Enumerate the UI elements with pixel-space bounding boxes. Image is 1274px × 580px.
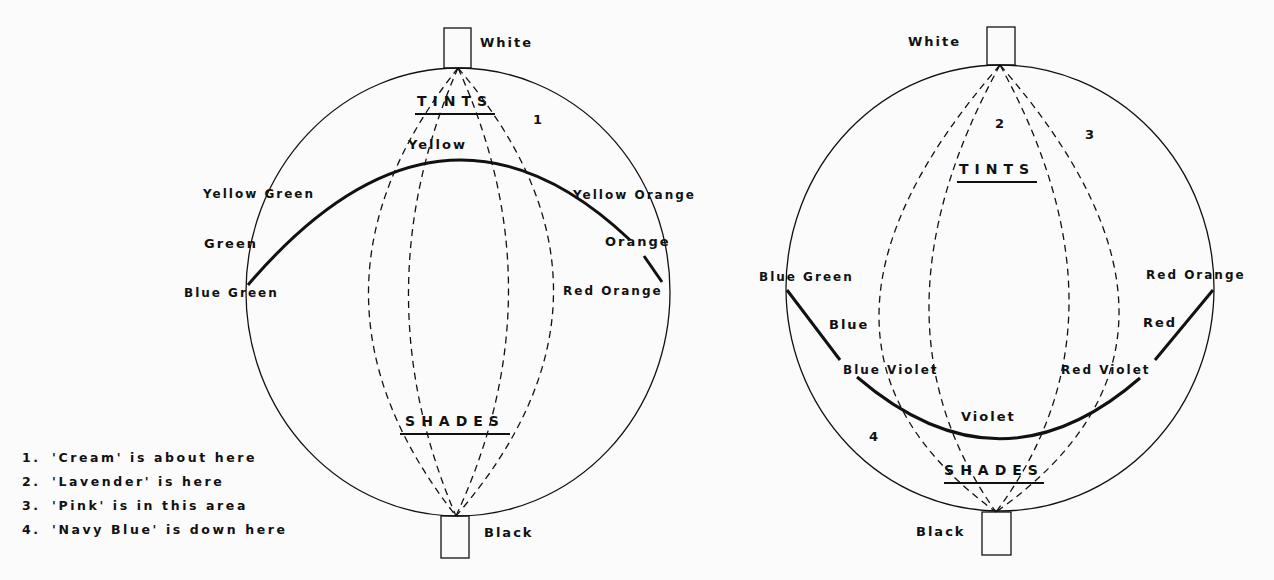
- legend-num: 3.: [22, 494, 52, 518]
- left-white-label: White: [480, 36, 533, 49]
- legend-item-2: 2.'Lavender' is here: [22, 470, 288, 494]
- legend-num: 2.: [22, 470, 52, 494]
- right-white-label: White: [908, 35, 961, 48]
- left-white-swatch: [444, 28, 471, 68]
- hue-yellow-orange: Yellow Orange: [573, 189, 696, 201]
- hue-blue-green-right: Blue Green: [759, 271, 854, 283]
- hue-green: Green: [204, 237, 258, 250]
- left-shades-heading: SHADES: [400, 414, 510, 435]
- hue-orange: Orange: [605, 235, 671, 248]
- right-black-label: Black: [916, 525, 966, 538]
- hue-red-orange-right: Red Orange: [1146, 269, 1246, 281]
- right-sphere-outline: [786, 65, 1214, 511]
- right-black-swatch: [982, 512, 1011, 555]
- hue-yellow-green: Yellow Green: [203, 188, 315, 200]
- legend-text: 'Lavender' is here: [52, 474, 224, 489]
- left-black-label: Black: [484, 526, 534, 539]
- left-black-swatch: [441, 516, 469, 558]
- right-meridians: [879, 65, 1119, 512]
- legend-num: 1.: [22, 446, 52, 470]
- hue-red: Red: [1143, 316, 1177, 329]
- hue-red-violet: Red Violet: [1061, 364, 1151, 376]
- legend-item-1: 1.'Cream' is about here: [22, 446, 288, 470]
- left-hue-arc-end: [644, 256, 662, 282]
- legend-item-3: 3.'Pink' is in this area: [22, 494, 288, 518]
- left-hue-arc: [248, 160, 630, 285]
- right-shades-heading: SHADES: [944, 463, 1044, 484]
- legend-text: 'Pink' is in this area: [52, 498, 248, 513]
- legend: 1.'Cream' is about here 2.'Lavender' is …: [22, 446, 288, 542]
- hue-blue-violet: Blue Violet: [843, 364, 939, 376]
- legend-item-4: 4.'Navy Blue' is down here: [22, 518, 288, 542]
- right-white-swatch: [987, 27, 1015, 65]
- hue-red-orange-left: Red Orange: [563, 285, 663, 297]
- right-hue-arc: [857, 377, 1140, 439]
- right-marker-4: 4: [869, 430, 878, 443]
- left-marker-1: 1: [533, 113, 542, 126]
- left-meridians: [368, 68, 553, 516]
- hue-violet: Violet: [961, 410, 1016, 423]
- legend-text: 'Cream' is about here: [52, 450, 257, 465]
- hue-blue-green-left: Blue Green: [184, 287, 279, 299]
- legend-text: 'Navy Blue' is down here: [52, 522, 288, 537]
- hue-blue: Blue: [829, 318, 869, 331]
- legend-num: 4.: [22, 518, 52, 542]
- hue-yellow: Yellow: [408, 138, 467, 151]
- right-marker-3: 3: [1085, 128, 1094, 141]
- right-tints-heading: TINTS: [957, 162, 1037, 183]
- right-marker-2: 2: [995, 117, 1004, 130]
- left-tints-heading: TINTS: [415, 94, 495, 115]
